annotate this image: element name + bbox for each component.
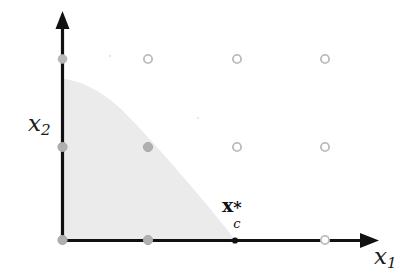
feasible-region-shape [63, 79, 235, 240]
x-axis-label: x1 [374, 245, 397, 271]
scan-speckle [197, 117, 199, 119]
lattice-point-filled [58, 235, 67, 244]
optimum-point-label: x*c [222, 196, 242, 215]
lattice-point-open [144, 55, 152, 63]
lattice-point-filled [143, 142, 152, 151]
lattice-point-open [233, 143, 241, 151]
y-axis-label-subscript: 2 [41, 121, 51, 139]
figure-container: x2 x1 x*c [0, 0, 409, 274]
scan-speckle [109, 55, 111, 57]
optimum-label-superscript: * [233, 200, 241, 216]
lattice-point-open [321, 55, 329, 63]
lattice-point-open [321, 143, 329, 151]
optimum-label-base: x [222, 194, 233, 216]
y-axis-arrow-icon [56, 11, 70, 29]
y-axis-label: x2 [28, 112, 51, 138]
x-axis-label-base: x [374, 243, 387, 269]
optimum-label-subscript: c [233, 217, 240, 230]
lattice-point-open [233, 55, 241, 63]
lattice-point-filled [58, 142, 67, 151]
x-axis-label-subscript: 1 [387, 254, 397, 272]
plot-canvas [0, 0, 409, 274]
lattice-point-open [321, 236, 329, 244]
y-axis-label-base: x [28, 110, 41, 136]
continuous-optimum-point [232, 237, 238, 243]
lattice-point-filled [58, 55, 67, 64]
lattice-point-filled [143, 235, 152, 244]
